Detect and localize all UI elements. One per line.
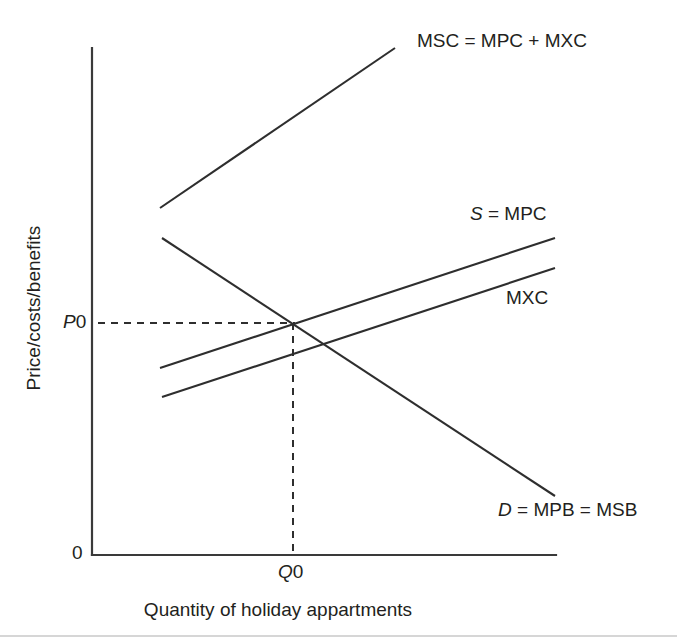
quantity-marker-italic: Q [278, 561, 293, 582]
curve-label-msc-text: MSC = MPC + MXC [417, 30, 587, 51]
quantity-marker-digit: 0 [293, 561, 304, 582]
economics-diagram: MSC = MPC + MXC S = MPC MXC D = MPB = MS… [0, 0, 677, 643]
curve-supply-mpc [160, 238, 555, 368]
curve-msc [160, 48, 395, 208]
x-axis-title: Quantity of holiday appartments [0, 600, 556, 619]
curve-label-demand-italic: D [498, 499, 512, 520]
origin-label: 0 [72, 543, 83, 562]
curve-label-mxc-text: MXC [506, 287, 548, 308]
price-marker-digit: 0 [76, 311, 87, 332]
quantity-marker-q0: Q0 [278, 562, 303, 581]
curve-label-demand: D = MPB = MSB [498, 500, 637, 519]
curve-demand-mpb-msb [162, 238, 555, 496]
curve-label-msc: MSC = MPC + MXC [417, 31, 587, 50]
price-marker-p0: P0 [63, 312, 86, 331]
y-axis-title: Price/costs/benefits [24, 208, 43, 408]
curve-label-supply: S = MPC [470, 204, 547, 223]
curve-label-demand-text: = MPB = MSB [512, 499, 638, 520]
curve-mxc [162, 268, 555, 397]
curve-label-supply-italic: S [470, 203, 483, 224]
price-marker-italic: P [63, 311, 76, 332]
curve-label-mxc: MXC [506, 288, 548, 307]
curve-label-supply-text: = MPC [483, 203, 547, 224]
chart-canvas [0, 0, 677, 643]
